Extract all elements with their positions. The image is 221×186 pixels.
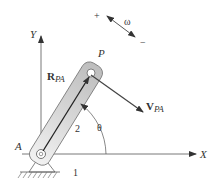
ground-number-label: 1 <box>73 167 78 178</box>
x-axis-label: X <box>199 148 208 160</box>
positive-sign: + <box>94 10 100 21</box>
pin-p <box>87 69 95 77</box>
link-number-label: 2 <box>75 123 80 134</box>
omega-label: ω <box>124 16 131 27</box>
velocity-vector-vpa <box>91 75 143 112</box>
y-axis-label: Y <box>30 28 38 40</box>
rpa-label: RPA <box>47 70 65 84</box>
vpa-label: VPA <box>146 100 164 114</box>
position-vector-rpa <box>43 77 89 151</box>
theta-label: θ <box>97 122 102 133</box>
kinematics-diagram: Y X A P RPA VPA θ ω + − 2 1 <box>0 0 221 186</box>
pivot-a-label: A <box>14 140 22 152</box>
negative-sign: − <box>140 37 146 48</box>
theta-arc <box>81 104 106 154</box>
point-p-label: P <box>97 47 105 59</box>
omega-arrow <box>107 16 135 37</box>
pivot-a <box>37 150 46 159</box>
